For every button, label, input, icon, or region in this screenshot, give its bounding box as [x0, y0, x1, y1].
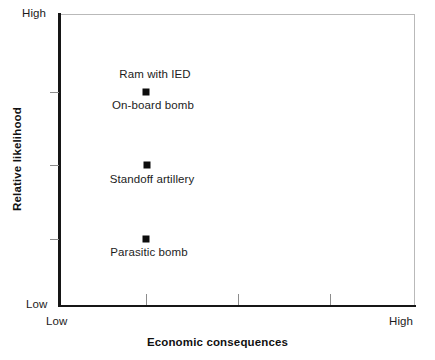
y-axis-high-label: High: [22, 7, 46, 19]
y-axis-title: Relative likelihood: [11, 79, 23, 239]
data-label-standoff-artillery: Standoff artillery: [110, 173, 195, 185]
x-axis-tick-1: [146, 294, 147, 305]
y-axis-tick-3: [50, 92, 59, 93]
y-axis-tick-2: [50, 165, 59, 166]
x-axis-tick-3: [330, 294, 331, 305]
data-marker-1[interactable]: [143, 89, 150, 96]
data-label-ram-with-ied: Ram with IED: [119, 68, 191, 80]
data-marker-2[interactable]: [144, 162, 151, 169]
x-axis-title: Economic consequences: [0, 336, 435, 348]
x-axis-low-label: Low: [46, 315, 67, 327]
x-axis-high-label: High: [389, 315, 413, 327]
scatter-chart: High Low Low High Relative likelihood Ec…: [0, 0, 435, 360]
y-axis-line: [58, 13, 61, 307]
y-axis-low-label: Low: [26, 298, 47, 310]
plot-area: [60, 14, 415, 305]
x-axis-line: [58, 305, 416, 308]
data-marker-3[interactable]: [143, 236, 150, 243]
data-label-on-board-bomb: On-board bomb: [112, 99, 194, 111]
y-axis-tick-1: [50, 239, 59, 240]
data-label-parasitic-bomb: Parasitic bomb: [110, 246, 187, 258]
x-axis-tick-2: [238, 294, 239, 305]
